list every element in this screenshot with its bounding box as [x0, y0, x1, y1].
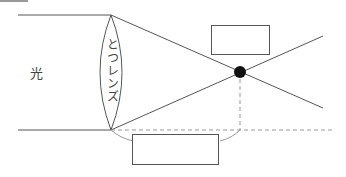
bracket-left: [111, 130, 133, 141]
bracket-right: [220, 130, 240, 141]
answer-box-focal-length[interactable]: [133, 135, 219, 165]
lens-label: とつレンズ: [103, 38, 120, 103]
light-label: 光: [30, 67, 43, 80]
lens-diagram: [0, 0, 346, 177]
focal-point: [234, 66, 246, 78]
answer-box-focal-label[interactable]: [212, 26, 270, 55]
